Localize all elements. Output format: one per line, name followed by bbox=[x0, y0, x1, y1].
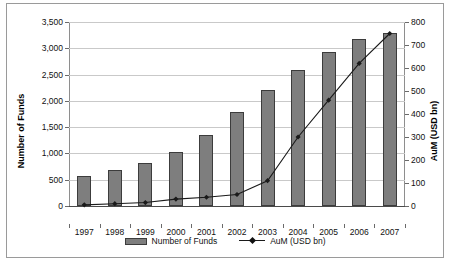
x-tick-mark bbox=[252, 224, 253, 228]
right-tick-mark bbox=[405, 114, 409, 115]
right-tick-mark bbox=[405, 137, 409, 138]
left-tick-label: 0 bbox=[58, 202, 63, 211]
chart-frame: Number of Funds AuM (USD bn) 05001,0001,… bbox=[6, 3, 444, 258]
right-tick-label: 0 bbox=[411, 202, 416, 211]
right-tick-label: 500 bbox=[411, 87, 425, 96]
x-tick-mark bbox=[161, 224, 162, 228]
line-marker bbox=[143, 200, 148, 205]
x-tick-mark bbox=[69, 224, 70, 228]
left-tick-label: 1,500 bbox=[42, 123, 63, 132]
right-tick-label: 600 bbox=[411, 64, 425, 73]
left-tick-label: 3,000 bbox=[42, 44, 63, 53]
left-tick-label: 500 bbox=[49, 176, 63, 185]
bar-swatch-icon bbox=[125, 238, 147, 245]
x-tick-mark bbox=[100, 224, 101, 228]
left-tick-label: 3,500 bbox=[42, 18, 63, 27]
plot-area: 05001,0001,5002,0002,5003,0003,500 01002… bbox=[69, 22, 405, 206]
right-tick-label: 400 bbox=[411, 110, 425, 119]
legend-item-line: AuM (USD bn) bbox=[239, 236, 325, 246]
right-tick-mark bbox=[405, 91, 409, 92]
x-tick-mark bbox=[313, 224, 314, 228]
legend-label-line: AuM (USD bn) bbox=[270, 236, 325, 246]
right-tick-label: 200 bbox=[411, 156, 425, 165]
x-tick-mark bbox=[374, 224, 375, 228]
legend-label-bar: Number of Funds bbox=[152, 236, 218, 246]
line-marker bbox=[204, 195, 209, 200]
x-tick-mark bbox=[191, 224, 192, 228]
right-tick-mark bbox=[405, 68, 409, 69]
right-tick-label: 700 bbox=[411, 41, 425, 50]
line-swatch-icon bbox=[239, 237, 265, 245]
x-tick-mark bbox=[130, 224, 131, 228]
line-path bbox=[84, 34, 389, 205]
line-marker bbox=[234, 192, 239, 197]
chart-legend: Number of Funds AuM (USD bn) bbox=[7, 236, 443, 246]
left-axis-title: Number of Funds bbox=[16, 93, 26, 168]
x-tick-mark bbox=[283, 224, 284, 228]
x-tick-mark bbox=[344, 224, 345, 228]
right-tick-mark bbox=[405, 206, 409, 207]
right-tick-label: 100 bbox=[411, 179, 425, 188]
right-tick-mark bbox=[405, 160, 409, 161]
left-tick-label: 2,500 bbox=[42, 71, 63, 80]
right-tick-mark bbox=[405, 183, 409, 184]
axis-baseline bbox=[69, 206, 405, 207]
legend-item-bar: Number of Funds bbox=[125, 236, 218, 246]
right-tick-mark bbox=[405, 22, 409, 23]
right-axis-title: AuM (USD bn) bbox=[428, 100, 438, 161]
right-tick-label: 300 bbox=[411, 133, 425, 142]
line-marker bbox=[173, 197, 178, 202]
left-tick-label: 2,000 bbox=[42, 97, 63, 106]
line-series bbox=[69, 22, 405, 206]
left-tick-label: 1,000 bbox=[42, 149, 63, 158]
right-tick-mark bbox=[405, 45, 409, 46]
left-tick-mark bbox=[65, 206, 69, 207]
x-tick-mark bbox=[222, 224, 223, 228]
line-marker bbox=[112, 201, 117, 206]
right-tick-label: 800 bbox=[411, 18, 425, 27]
x-tick-mark bbox=[405, 224, 406, 228]
